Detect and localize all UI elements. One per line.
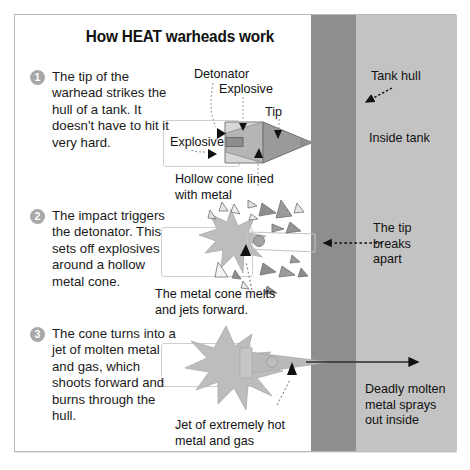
step-3: 3 The cone turns into a jet of molten me… xyxy=(30,326,180,424)
label-tip-breaks: The tip breaks apart xyxy=(373,221,412,268)
step-2: 2 The impact triggers the detonator. Thi… xyxy=(30,208,180,290)
label-explosive-top: Explosive xyxy=(219,82,273,98)
step-2-number: 2 xyxy=(30,209,45,224)
label-deadly-molten: Deadly molten metal sprays out inside xyxy=(365,382,446,429)
step-3-number: 3 xyxy=(30,327,45,342)
label-tank-hull: Tank hull xyxy=(371,69,421,85)
step-1-number: 1 xyxy=(30,70,45,85)
step-2-text: The impact triggers the detonator. This … xyxy=(52,208,180,290)
label-jet: Jet of extremely hot metal and gas xyxy=(175,418,285,449)
step-3-text: The cone turns into a jet of molten meta… xyxy=(52,326,180,424)
label-explosive-left: Explosive xyxy=(170,135,224,151)
tank-hull-band xyxy=(311,15,356,451)
step-1-text: The tip of the warhead strikes the hull … xyxy=(52,69,180,151)
page-title: How HEAT warheads work xyxy=(68,27,291,46)
label-hollow-cone: Hollow cone lined with metal xyxy=(175,172,274,203)
label-tip: Tip xyxy=(265,105,282,121)
step-1: 1 The tip of the warhead strikes the hul… xyxy=(30,69,180,151)
heat-warhead-diagram: How HEAT warheads work xyxy=(0,0,470,470)
label-detonator: Detonator xyxy=(194,67,249,83)
label-cone-melts: The metal cone melts and jets forward. xyxy=(155,287,275,318)
label-inside-tank: Inside tank xyxy=(369,131,430,147)
